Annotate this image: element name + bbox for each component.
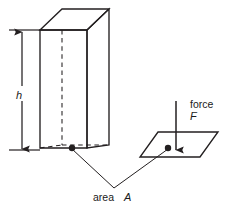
leader-to-prism-base [72, 149, 114, 188]
height-label: h [16, 90, 22, 102]
force-symbol-label: F [190, 111, 197, 123]
prism-base-point [69, 145, 75, 151]
leader-lines [72, 149, 168, 188]
force-label: force [190, 99, 213, 110]
prism-front-face [40, 30, 87, 148]
area-label: area [93, 192, 114, 203]
prism-hidden-edges [40, 30, 109, 148]
area-parallelogram [140, 132, 218, 157]
physics-diagram-figure: h force F area A [0, 0, 228, 213]
rectangular-prism [40, 9, 109, 148]
area-plane-outline [140, 132, 218, 157]
plane-area-point [165, 145, 171, 151]
prism-right-face [87, 9, 109, 148]
height-dimension [9, 30, 40, 150]
area-symbol-label: A [124, 192, 131, 204]
